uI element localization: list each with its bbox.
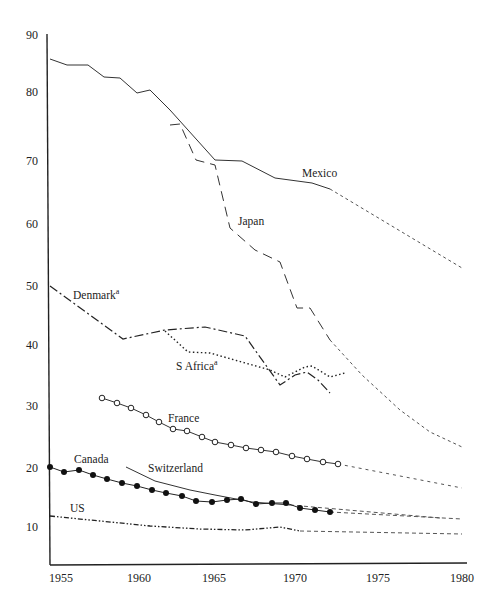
x-tick-1975: 1975 <box>366 571 390 585</box>
series-japan-projection <box>330 340 462 447</box>
series-mexico <box>50 59 330 189</box>
y-tick-30: 30 <box>26 399 38 413</box>
series-japan <box>170 124 330 340</box>
y-tick-10: 10 <box>26 520 38 534</box>
series-us <box>50 516 300 531</box>
series-denmark <box>50 286 330 393</box>
line-chart: 90 80 70 60 50 40 30 20 10 1955 1960 196… <box>0 0 492 609</box>
label-us: US <box>70 502 85 514</box>
label-switzerland: Switzerland <box>148 462 203 474</box>
y-tick-80: 80 <box>26 85 38 99</box>
x-tick-1970: 1970 <box>283 571 307 585</box>
x-tick-1980: 1980 <box>450 571 474 585</box>
y-tick-50: 50 <box>26 279 38 293</box>
label-canada: Canada <box>74 453 108 465</box>
x-tick-1960: 1960 <box>127 571 151 585</box>
y-tick-60: 60 <box>26 217 38 231</box>
x-tick-1965: 1965 <box>202 571 226 585</box>
series-mexico-projection <box>330 189 462 268</box>
label-mexico: Mexico <box>302 167 337 179</box>
x-tick-1955: 1955 <box>49 571 73 585</box>
series-france <box>102 398 338 464</box>
label-france: France <box>168 412 199 424</box>
x-axis <box>50 563 467 565</box>
y-tick-90: 90 <box>26 28 38 42</box>
y-axis <box>47 34 50 565</box>
series-canada-projection <box>330 512 462 519</box>
y-tick-70: 70 <box>26 154 38 168</box>
label-s-africa: S Africaa <box>176 358 218 372</box>
label-denmark: Denmarka <box>73 287 120 301</box>
series-france-projection <box>338 464 462 488</box>
y-tick-20: 20 <box>26 461 38 475</box>
series-us-projection <box>300 531 462 534</box>
france-markers <box>99 395 341 467</box>
y-tick-40: 40 <box>26 338 38 352</box>
label-japan: Japan <box>238 215 264 228</box>
